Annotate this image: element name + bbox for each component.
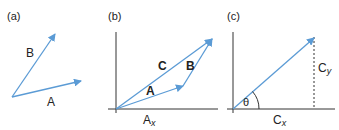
angle-arc: [253, 92, 260, 110]
panel-c-label: (c): [227, 10, 240, 22]
theta-label: θ: [243, 96, 249, 108]
panel-c: (c) θ Cy Cx: [227, 10, 335, 128]
vector-diagram: (a) B A (b) C B A Ax (c) θ Cy Cx: [0, 0, 339, 130]
panel-a: (a) B A: [7, 10, 81, 109]
cx-component-label: Cx: [273, 113, 287, 128]
ax-component-label: Ax: [143, 113, 156, 128]
vector-c-arrow: [116, 39, 212, 109]
vector-a-label: A: [47, 95, 55, 109]
vector-b-arrow: [12, 34, 55, 97]
vector-b-label: B: [186, 59, 195, 73]
vector-a-label: A: [146, 84, 155, 98]
panel-a-label: (a): [7, 10, 20, 22]
panel-b: (b) C B A Ax: [108, 10, 218, 128]
vector-c-label: C: [158, 59, 167, 73]
cy-component-label: Cy: [318, 61, 332, 76]
vector-b-label: B: [26, 46, 34, 60]
panel-b-label: (b): [108, 10, 121, 22]
